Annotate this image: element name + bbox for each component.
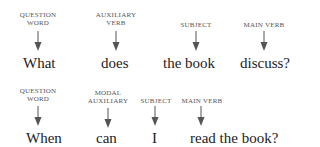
label-main-verb: MAIN VERB bbox=[182, 97, 223, 105]
word: discuss? bbox=[240, 55, 290, 72]
word: What bbox=[23, 55, 55, 72]
label-subject: SUBJECT bbox=[181, 21, 212, 29]
label-text: SUBJECT bbox=[181, 21, 212, 29]
label-text: MODAL AUXILIARY bbox=[88, 89, 128, 105]
label-question-word: QUESTION WORD bbox=[20, 87, 57, 103]
word: does bbox=[101, 55, 129, 72]
arrow-down-icon bbox=[34, 31, 43, 51]
label-text: MAIN VERB bbox=[244, 21, 285, 29]
arrow-down-icon bbox=[104, 108, 113, 128]
word: read the book? bbox=[190, 130, 278, 147]
label-modal-auxiliary: MODAL AUXILIARY bbox=[88, 89, 128, 105]
word: can bbox=[96, 130, 117, 147]
word: When bbox=[26, 130, 62, 147]
label-text: QUESTION WORD bbox=[20, 11, 57, 27]
label-auxiliary-verb: AUXILIARY VERB bbox=[96, 11, 136, 27]
label-text: QUESTION WORD bbox=[20, 87, 57, 103]
word: the book bbox=[163, 55, 215, 72]
arrow-down-icon bbox=[192, 31, 201, 51]
label-text: MAIN VERB bbox=[182, 97, 223, 105]
arrow-down-icon bbox=[112, 31, 121, 51]
label-question-word: QUESTION WORD bbox=[20, 11, 57, 27]
label-main-verb: MAIN VERB bbox=[244, 21, 285, 29]
arrow-down-icon bbox=[151, 106, 160, 126]
label-subject: SUBJECT bbox=[141, 97, 172, 105]
word: I bbox=[152, 130, 157, 147]
arrow-down-icon bbox=[260, 31, 269, 51]
arrow-down-icon bbox=[34, 106, 43, 126]
label-text: AUXILIARY VERB bbox=[96, 11, 136, 27]
arrow-down-icon bbox=[197, 106, 206, 126]
label-text: SUBJECT bbox=[141, 97, 172, 105]
